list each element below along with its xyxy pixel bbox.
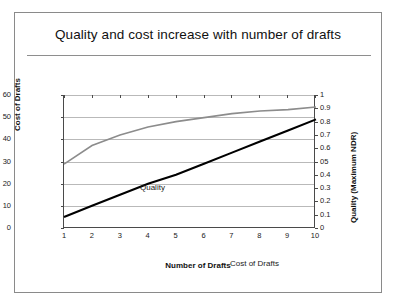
y-tick-label-right: 0.6 [320,144,346,152]
cost-series-line [64,119,316,217]
y-tick-label-left: 10 [0,202,11,210]
cost-series-label: Cost of Drafts [230,259,279,268]
quality-series-line [64,107,316,164]
y-tick-label-right: 0.2 [320,197,346,205]
y-axis-label-right: Quality (Maximum NDR) [349,132,358,223]
title-divider [27,55,371,56]
y-tick-label-left: 60 [0,91,11,99]
x-tick-label: 10 [307,231,323,240]
x-tick-label: 8 [251,231,267,240]
x-tick-label: 2 [84,231,100,240]
y-tick-label-left: 20 [0,180,11,188]
x-tick-label: 9 [279,231,295,240]
y-tick-label-left: 30 [0,158,11,166]
x-tick-label: 4 [140,231,156,240]
y-axis-label-left: Cost of Drafts [13,78,22,131]
y-tick-label-right: 0.7 [320,131,346,139]
x-tick-label: 5 [168,231,184,240]
x-tick-label: 1 [56,231,72,240]
y-tick-label-left: 40 [0,135,11,143]
y-tick-label-right: 0.3 [320,184,346,192]
slide-frame: Quality and cost increase with number of… [14,12,382,293]
page-title: Quality and cost increase with number of… [15,27,381,42]
plot-area: 60 50 40 30 20 10 0 1 0.9 0.8 0.7 0.6 05… [63,95,315,228]
x-tick-label: 6 [196,231,212,240]
series-layer [64,95,316,228]
y-tick-label-right: 0.8 [320,118,346,126]
x-axis-label: Number of Drafts [15,261,381,270]
y-tick-label-right: 0.1 [320,211,346,219]
y-tick-label-right: 0.4 [320,171,346,179]
y-tick-label-left: 0 [0,224,11,232]
x-tick-label: 3 [112,231,128,240]
y-tick-label-right: 0 [320,224,346,232]
y-tick-label-right: 1 [320,91,346,99]
y-tick-label-right: 05 [320,158,346,166]
y-tick-label-left: 50 [0,113,11,121]
x-tick-label: 7 [223,231,239,240]
y-tick-label-right: 0.9 [320,104,346,112]
quality-series-label: Quality [140,183,165,192]
